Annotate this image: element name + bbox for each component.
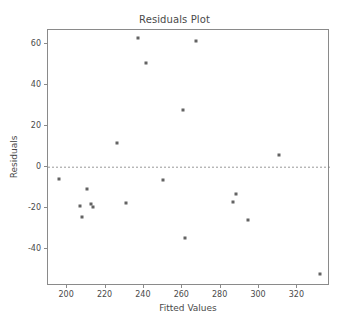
x-tick-label: 260	[174, 290, 189, 299]
plot-canvas	[48, 30, 330, 286]
data-point	[137, 37, 140, 40]
y-tick-mark	[44, 43, 47, 44]
y-tick-label: 60	[7, 39, 41, 48]
x-axis-label: Fitted Values	[47, 303, 329, 313]
y-tick-mark	[44, 207, 47, 208]
y-tick-mark	[44, 166, 47, 167]
data-point	[277, 154, 280, 157]
data-point	[194, 39, 197, 42]
x-tick-label: 220	[97, 290, 112, 299]
chart-title: Residuals Plot	[0, 14, 349, 25]
y-tick-mark	[44, 248, 47, 249]
data-point	[80, 216, 83, 219]
y-axis-label-text: Residuals	[9, 136, 19, 179]
y-tick-mark	[44, 84, 47, 85]
data-point	[246, 218, 249, 221]
data-point	[182, 109, 185, 112]
data-point	[234, 192, 237, 195]
plot-area	[47, 29, 329, 285]
x-tick-label: 280	[212, 290, 227, 299]
data-point	[232, 200, 235, 203]
x-tick-mark	[220, 285, 221, 288]
data-point	[144, 61, 147, 64]
data-point	[161, 178, 164, 181]
residuals-plot-figure: Residuals Plot -40-200204060 20022024026…	[0, 0, 349, 323]
data-point	[183, 237, 186, 240]
x-tick-label: 240	[135, 290, 150, 299]
y-tick-label: -20	[7, 203, 41, 212]
x-tick-label: 200	[59, 290, 74, 299]
x-tick-mark	[258, 285, 259, 288]
x-tick-label: 300	[250, 290, 265, 299]
data-point	[57, 177, 60, 180]
x-tick-label: 320	[289, 290, 304, 299]
data-point	[79, 204, 82, 207]
y-tick-label: 40	[7, 80, 41, 89]
data-point	[116, 142, 119, 145]
data-point	[319, 272, 322, 275]
x-tick-mark	[66, 285, 67, 288]
x-tick-mark	[181, 285, 182, 288]
x-tick-mark	[105, 285, 106, 288]
y-tick-label: -40	[7, 244, 41, 253]
data-point	[124, 201, 127, 204]
data-point	[86, 188, 89, 191]
x-tick-mark	[143, 285, 144, 288]
y-tick-mark	[44, 125, 47, 126]
y-tick-label: 20	[7, 121, 41, 130]
x-tick-mark	[296, 285, 297, 288]
data-point	[91, 206, 94, 209]
